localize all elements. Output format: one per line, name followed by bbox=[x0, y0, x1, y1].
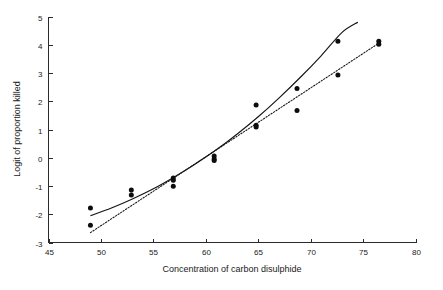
y-axis-title: Logit of proportion killed bbox=[12, 81, 22, 177]
data-point bbox=[212, 158, 217, 163]
y-tick-label: 3 bbox=[38, 70, 43, 79]
data-point bbox=[376, 42, 381, 47]
data-point bbox=[129, 193, 134, 198]
data-point bbox=[254, 102, 259, 107]
x-tick-label: 55 bbox=[149, 248, 158, 257]
y-axis-tick-labels: -3-2-1012345 bbox=[35, 14, 43, 249]
solid-fit-curve bbox=[90, 22, 357, 216]
y-tick-label: -3 bbox=[35, 240, 43, 249]
data-point bbox=[295, 108, 300, 113]
data-point bbox=[171, 184, 176, 189]
x-tick-label: 60 bbox=[202, 248, 211, 257]
x-tick-label: 50 bbox=[97, 248, 106, 257]
x-tick-label: 45 bbox=[45, 248, 54, 257]
x-axis-ticks bbox=[50, 239, 417, 243]
x-axis-tick-labels: 4550556065707580 bbox=[45, 248, 421, 257]
x-tick-label: 70 bbox=[307, 248, 316, 257]
y-tick-label: 5 bbox=[38, 14, 43, 23]
x-tick-label: 80 bbox=[412, 248, 421, 257]
scatter-plot: 4550556065707580 -3-2-1012345 Concentrat… bbox=[0, 0, 443, 290]
y-tick-label: 2 bbox=[38, 98, 43, 107]
data-point bbox=[171, 178, 176, 183]
y-tick-label: 0 bbox=[38, 155, 43, 164]
dotted-fit-curve bbox=[90, 42, 379, 232]
data-point bbox=[129, 187, 134, 192]
data-point bbox=[335, 72, 340, 77]
y-tick-label: -1 bbox=[35, 183, 43, 192]
data-point bbox=[335, 39, 340, 44]
y-tick-label: 1 bbox=[38, 127, 43, 136]
y-tick-label: -2 bbox=[35, 211, 43, 220]
chart-figure: 4550556065707580 -3-2-1012345 Concentrat… bbox=[0, 0, 443, 290]
y-axis-ticks bbox=[49, 18, 53, 244]
x-tick-label: 75 bbox=[359, 248, 368, 257]
y-tick-label: 4 bbox=[38, 42, 43, 51]
x-tick-label: 65 bbox=[254, 248, 263, 257]
data-point bbox=[88, 206, 93, 211]
data-point bbox=[295, 86, 300, 91]
data-point bbox=[254, 124, 259, 129]
x-axis-title: Concentration of carbon disulphide bbox=[162, 264, 301, 274]
data-point bbox=[88, 223, 93, 228]
